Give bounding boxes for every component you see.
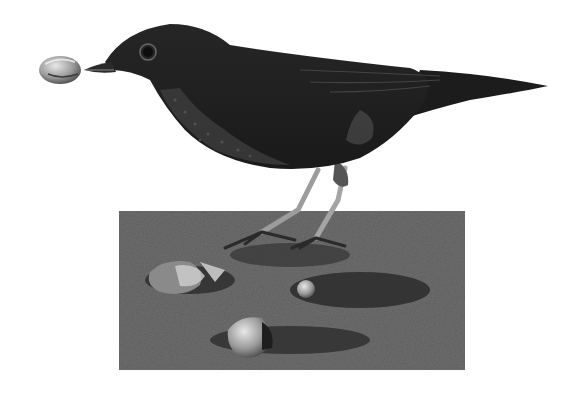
snail-shell-middle <box>297 280 315 298</box>
thrush-scene <box>0 0 585 398</box>
thrush-bird <box>84 24 548 169</box>
snail-in-beak <box>39 56 81 84</box>
